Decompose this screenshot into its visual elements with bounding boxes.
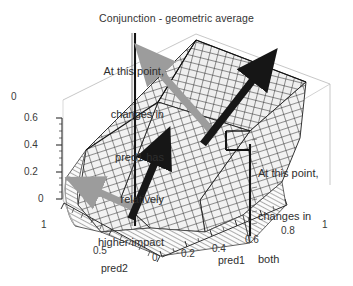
figure-canvas: Conjunction - geometric average At this … <box>0 0 353 286</box>
y-tick-0: 0 <box>152 252 158 263</box>
z-tick-0.2: 0.2 <box>24 166 38 177</box>
x-tick-0.4: 0.4 <box>212 243 226 254</box>
annotation-right-line-1: At this point, <box>258 166 353 180</box>
chart-title: Conjunction - geometric average <box>0 12 353 25</box>
x-tick-0.6: 0.6 <box>245 234 259 245</box>
annotation-right-line-3: both <box>258 252 353 266</box>
y-tick-1: 1 <box>41 219 47 230</box>
annotation-left-line-4: relatively <box>24 192 164 206</box>
z-tick-0.6: 0.6 <box>24 112 38 123</box>
annotation-right: At this point, changes in both predicate… <box>258 138 353 286</box>
annotation-right-line-2: changes in <box>258 209 353 223</box>
x-axis-label: pred1 <box>218 254 245 266</box>
x-tick-1: 1 <box>322 219 328 230</box>
y-tick-0.5: 0.5 <box>93 245 107 256</box>
z-axis-corner-label: 0 <box>11 91 17 102</box>
annotation-left-line-2: changes in <box>24 107 164 121</box>
x-tick-0.2: 0.2 <box>181 248 195 259</box>
annotation-left: At this point, changes in pred1 has rela… <box>24 36 164 277</box>
y-axis-label: pred2 <box>101 262 128 274</box>
z-tick-0: 0 <box>38 193 44 204</box>
x-tick-0.8: 0.8 <box>281 225 295 236</box>
annotation-left-line-1: At this point, <box>24 64 164 78</box>
z-tick-0.4: 0.4 <box>24 139 38 150</box>
annotation-left-line-3: pred1 has <box>24 150 164 164</box>
